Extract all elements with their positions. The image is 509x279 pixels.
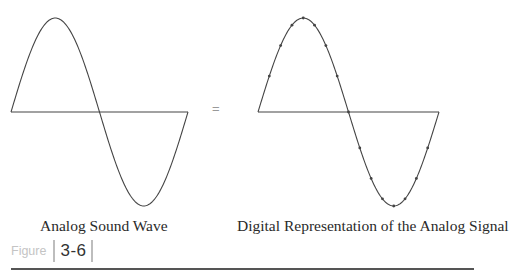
equals-sign: = (212, 101, 220, 116)
sample-point (268, 75, 271, 78)
bottom-rule (11, 268, 474, 270)
figure-label: Figure 3-6 (11, 240, 93, 262)
figure-word: Figure (11, 244, 46, 258)
digital-caption: Digital Representation of the Analog Sig… (237, 217, 509, 235)
sample-point (415, 177, 418, 180)
sample-point (370, 177, 373, 180)
sample-point (302, 17, 305, 20)
sample-point (381, 197, 384, 200)
sample-point (404, 197, 407, 200)
sample-point (313, 24, 316, 27)
figure-divider-right (91, 240, 93, 262)
figure-number: 3-6 (55, 241, 90, 261)
analog-panel (11, 18, 188, 206)
sample-point (336, 75, 339, 78)
sample-point (392, 205, 395, 208)
sample-point (347, 111, 350, 114)
sample-point (358, 147, 361, 150)
analog-caption: Analog Sound Wave (40, 217, 168, 235)
sample-point (291, 24, 294, 27)
sample-point (324, 44, 327, 47)
sample-point (426, 147, 429, 150)
sample-point (279, 44, 282, 47)
digital-panel (258, 17, 439, 208)
